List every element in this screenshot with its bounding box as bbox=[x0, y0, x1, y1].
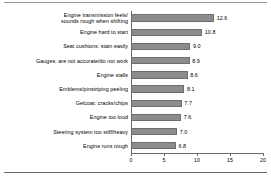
category-label: Emblems/pinstriping peeling bbox=[0, 86, 131, 92]
chart-row: Emblems/pinstriping peeling 8.1 bbox=[0, 82, 271, 96]
x-axis-tick bbox=[131, 153, 132, 156]
bar bbox=[131, 43, 190, 50]
chart-row: Engine hard to start 10.8 bbox=[0, 25, 271, 39]
bar-value-label: 10.8 bbox=[205, 29, 216, 35]
chart-row: Gauges: are not accurate/do not work 8.9 bbox=[0, 54, 271, 68]
x-axis-tick-label: 20 bbox=[260, 157, 266, 163]
chart-row: Engine stalls 8.6 bbox=[0, 68, 271, 82]
x-axis-tick bbox=[263, 153, 264, 156]
bar-zone: 12.6 bbox=[131, 11, 271, 25]
bar-value-label: 8.6 bbox=[190, 72, 198, 78]
bar-value-label: 7.6 bbox=[184, 114, 192, 120]
bar-zone: 7.6 bbox=[131, 110, 271, 124]
chart-row: Engine transmission feels/ sounds rough … bbox=[0, 11, 271, 25]
bar-zone: 7.7 bbox=[131, 96, 271, 110]
chart-row: Engine runs rough 6.8 bbox=[0, 139, 271, 153]
x-axis-tick-label: 15 bbox=[227, 157, 233, 163]
bar-chart-figure: Engine transmission feels/ sounds rough … bbox=[0, 0, 271, 180]
bar-value-label: 8.1 bbox=[187, 86, 195, 92]
bar-value-label: 7.7 bbox=[184, 100, 192, 106]
category-label: Engine hard to start bbox=[0, 29, 131, 35]
chart-row: Seat cushions: stain easily 9.0 bbox=[0, 39, 271, 53]
bar-value-label: 6.8 bbox=[178, 143, 186, 149]
x-axis-tick bbox=[164, 153, 165, 156]
chart-row: Gelcoat: cracks/chips 7.7 bbox=[0, 96, 271, 110]
x-axis-tick-label: 5 bbox=[163, 157, 166, 163]
bar-zone: 6.8 bbox=[131, 139, 271, 153]
bar bbox=[131, 128, 177, 135]
bar bbox=[131, 14, 214, 21]
bar-zone: 8.1 bbox=[131, 82, 271, 96]
chart-row: Steering system too stiff/heavy 7.0 bbox=[0, 125, 271, 139]
category-label: Steering system too stiff/heavy bbox=[0, 129, 131, 135]
category-label: Engine transmission feels/ sounds rough … bbox=[0, 12, 131, 24]
bar-value-label: 12.6 bbox=[217, 15, 228, 21]
chart-row: Engine too loud 7.6 bbox=[0, 110, 271, 124]
bar-value-label: 9.0 bbox=[193, 43, 201, 49]
x-axis-tick bbox=[197, 153, 198, 156]
bar bbox=[131, 142, 176, 149]
x-axis-tick-label: 10 bbox=[194, 157, 200, 163]
bar-zone: 8.6 bbox=[131, 68, 271, 82]
y-axis-line bbox=[131, 11, 132, 153]
category-label: Engine too loud bbox=[0, 114, 131, 120]
bar-zone: 8.9 bbox=[131, 54, 271, 68]
plot-area: Engine transmission feels/ sounds rough … bbox=[0, 0, 271, 180]
bar bbox=[131, 71, 188, 78]
category-label: Engine stalls bbox=[0, 72, 131, 78]
bar-rows: Engine transmission feels/ sounds rough … bbox=[0, 11, 271, 153]
x-axis-tick-label: 0 bbox=[130, 157, 133, 163]
category-label: Gauges: are not accurate/do not work bbox=[0, 58, 131, 64]
category-label: Engine runs rough bbox=[0, 143, 131, 149]
x-axis-tick bbox=[230, 153, 231, 156]
category-label: Gelcoat: cracks/chips bbox=[0, 100, 131, 106]
bar bbox=[131, 29, 202, 36]
bar-zone: 7.0 bbox=[131, 125, 271, 139]
bar-zone: 9.0 bbox=[131, 39, 271, 53]
bar-value-label: 7.0 bbox=[180, 129, 188, 135]
bar-value-label: 8.9 bbox=[192, 58, 200, 64]
bar bbox=[131, 114, 181, 121]
bar-zone: 10.8 bbox=[131, 25, 271, 39]
category-label: Seat cushions: stain easily bbox=[0, 43, 131, 49]
bar bbox=[131, 100, 182, 107]
bar bbox=[131, 85, 184, 92]
bottom-divider-rule bbox=[4, 172, 267, 173]
bar bbox=[131, 57, 190, 64]
